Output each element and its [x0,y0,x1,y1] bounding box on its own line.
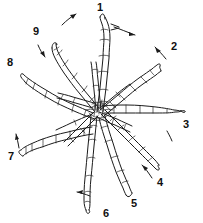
arrow-top-left [62,14,76,25]
arrow-for-label-7 [15,134,19,148]
label-9: 9 [33,25,39,37]
body-figure-2 [100,64,161,116]
figure-canvas: 1 2 3 4 5 6 7 8 9 [0,0,203,223]
label-8: 8 [7,56,13,68]
body-figure-1 [97,14,110,112]
label-1: 1 [97,1,103,13]
body-figure-8 [21,74,95,119]
arrow-for-label-1 [111,24,135,36]
arrow-for-label-4 [142,165,152,178]
arrow-for-label-3 [167,131,172,141]
label-6: 6 [103,207,109,219]
body-figure-7 [19,127,93,156]
body-figure-6 [84,116,97,213]
label-2: 2 [171,40,177,52]
radial-figure-illustration: 1 2 3 4 5 6 7 8 9 [0,0,203,223]
arrow-for-label-9 [38,45,45,57]
label-7: 7 [8,150,14,162]
label-4: 4 [157,176,164,188]
label-5: 5 [131,197,137,209]
arrow-for-label-2 [155,47,166,59]
pointer-arrows-group [15,14,172,196]
label-3: 3 [183,118,189,130]
